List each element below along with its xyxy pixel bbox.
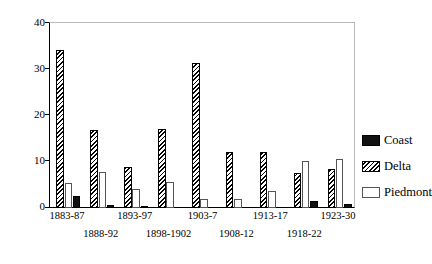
- x-axis-label-1918-22: 1918-22: [270, 228, 338, 239]
- y-tick-label-40: 40: [0, 17, 45, 28]
- x-axis-label-1903-7: 1903-7: [169, 210, 237, 221]
- top-edge-artifact: [60, 0, 260, 6]
- x-axis-label-1913-17: 1913-17: [236, 210, 304, 221]
- bar-piedmont-1913-17: [268, 191, 276, 208]
- bar-delta-1918-22: [294, 173, 302, 208]
- legend-item-piedmont: Piedmont: [362, 184, 424, 210]
- bar-delta-1898-1902: [158, 129, 166, 208]
- bars-layer: [50, 22, 355, 208]
- legend-label-coast: Coast: [384, 132, 412, 149]
- bar-delta-1908-12: [226, 152, 234, 208]
- legend-label-delta: Delta: [384, 158, 411, 175]
- x-axis-label-1908-12: 1908-12: [202, 228, 270, 239]
- x-axis-label-1923-30: 1923-30: [304, 210, 372, 221]
- bar-coast-1888-92: [107, 205, 115, 208]
- piedmont-swatch-icon: [362, 187, 380, 198]
- bar-piedmont-1893-97: [132, 189, 140, 208]
- bar-delta-1893-97: [124, 167, 132, 208]
- x-axis-label-1893-97: 1893-97: [101, 210, 169, 221]
- legend-item-delta: Delta: [362, 158, 424, 184]
- x-axis-label-1883-87: 1883-87: [33, 210, 101, 221]
- x-axis-label-1898-1902: 1898-1902: [135, 228, 203, 239]
- bar-coast-1893-97: [141, 206, 149, 208]
- bar-coast-1918-22: [310, 201, 318, 208]
- bar-piedmont-1888-92: [99, 172, 107, 208]
- bar-delta-1923-30: [328, 169, 336, 208]
- y-tick-label-20: 20: [0, 109, 45, 120]
- y-tick-label-30: 30: [0, 63, 45, 74]
- bar-piedmont-1898-1902: [166, 182, 174, 208]
- coast-swatch-icon: [362, 135, 380, 146]
- bar-piedmont-1918-22: [302, 161, 310, 208]
- legend-item-coast: Coast: [362, 132, 424, 158]
- x-axis-label-1888-92: 1888-92: [67, 228, 135, 239]
- bar-coast-1883-87: [73, 196, 81, 208]
- legend-label-piedmont: Piedmont: [384, 184, 432, 201]
- bar-coast-1923-30: [344, 204, 352, 208]
- bar-delta-1888-92: [90, 130, 98, 208]
- bar-piedmont-1883-87: [65, 183, 73, 208]
- legend: Coast Delta Piedmont: [362, 132, 424, 210]
- y-tick-label-10: 10: [0, 155, 45, 166]
- bar-piedmont-1923-30: [336, 159, 344, 208]
- bar-piedmont-1908-12: [234, 199, 242, 208]
- bar-piedmont-1903-7: [200, 199, 208, 208]
- bar-delta-1903-7: [192, 63, 200, 208]
- bar-delta-1883-87: [56, 50, 64, 208]
- bar-delta-1913-17: [260, 152, 268, 208]
- delta-swatch-icon: [362, 161, 380, 172]
